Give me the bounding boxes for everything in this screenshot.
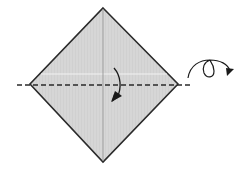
diagram-canvas	[0, 0, 252, 175]
origami-diagram	[0, 0, 252, 175]
turn-over-arrow-icon	[188, 60, 234, 78]
